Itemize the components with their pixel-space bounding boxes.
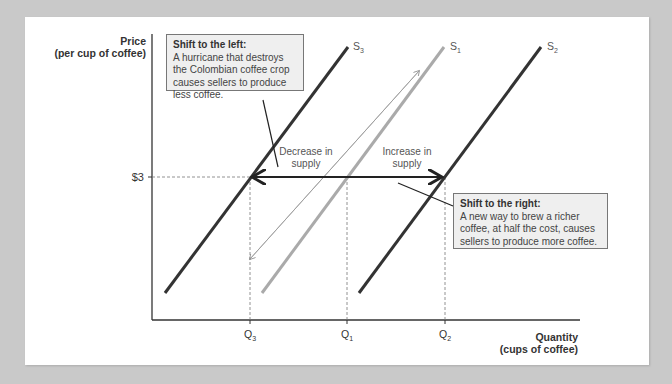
x-axis-sublabel: (cups of coffee) [450, 343, 578, 355]
s3-label: S3 [353, 40, 364, 54]
price-tick-label: $3 [110, 171, 144, 183]
y-axis-sublabel: (per cup of coffee) [20, 47, 146, 59]
s2-label: S2 [547, 40, 558, 54]
decrease-label: Decrease in supply [272, 146, 340, 170]
q1-tick-label: Q1 [341, 328, 353, 342]
s1-label: S1 [450, 40, 461, 54]
s2-curve [359, 47, 541, 293]
shift-right-text: A new way to brew a richer coffee, at ha… [460, 211, 597, 247]
q3-tick-label: Q3 [244, 328, 256, 342]
increase-label: Increase in supply [373, 146, 441, 170]
x-axis-label: Quantity [480, 331, 578, 343]
shift-left-text: A hurricane that destroys the Colombian … [173, 52, 290, 101]
y-axis-label: Price [40, 35, 146, 47]
shift-left-title: Shift to the left: [173, 39, 297, 52]
shift-right-callout: Shift to the right: A new way to brew a … [453, 193, 608, 249]
shift-right-title: Shift to the right: [460, 198, 601, 211]
shift-left-callout: Shift to the left: A hurricane that dest… [166, 34, 304, 91]
q2-tick-label: Q2 [439, 328, 451, 342]
